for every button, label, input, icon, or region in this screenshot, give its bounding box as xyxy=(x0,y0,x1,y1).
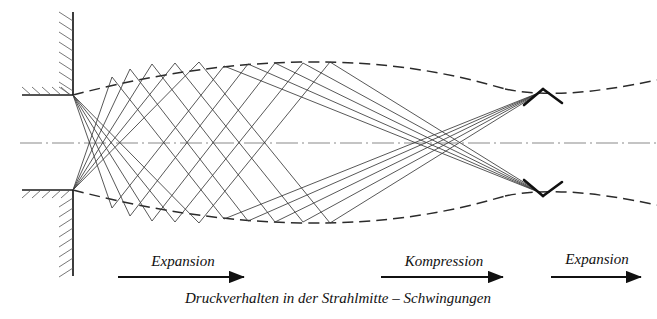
nozzle-upper-lip-hatching xyxy=(22,87,70,95)
label-kompression: Kompression xyxy=(404,253,484,269)
jet-boundary-upper-cell2 xyxy=(505,80,657,93)
expansion-fan-upper-lip xyxy=(73,95,199,223)
nozzle-upper-lip xyxy=(22,12,73,95)
label-expansion-2: Expansion xyxy=(564,251,628,267)
converging-waves-upper-focus xyxy=(224,92,541,223)
figure-caption: Druckverhalten in der Strahlmitte – Schw… xyxy=(184,290,491,306)
jet-shock-cell-diagram: Expansion Kompression Expansion Druckver… xyxy=(0,0,657,319)
figure-container: Expansion Kompression Expansion Druckver… xyxy=(0,0,657,319)
nozzle-lower-wall-hatching xyxy=(59,198,73,277)
nozzle-lower-lip xyxy=(22,190,73,277)
nozzle-upper-wall-hatching xyxy=(59,12,73,95)
nozzle-lower-lip-hatching xyxy=(22,190,70,198)
jet-boundary-lower-cell2 xyxy=(505,192,657,205)
expansion-fan-lower-lip xyxy=(73,62,199,190)
converging-waves-lower-focus xyxy=(224,62,541,193)
label-expansion-1: Expansion xyxy=(150,253,214,269)
